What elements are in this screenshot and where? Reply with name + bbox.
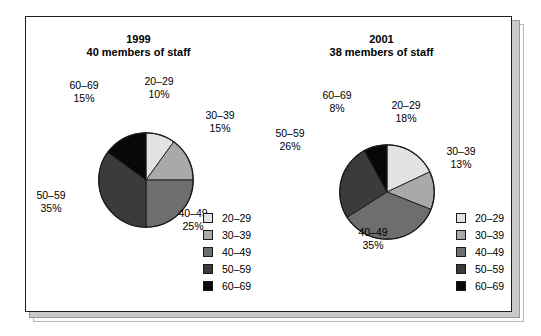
callout-2001-30-39: 30–39 13% [435, 145, 487, 171]
chart-title-1999: 1999 40 members of staff [36, 33, 241, 59]
callout-group: 50–59 [263, 127, 317, 140]
legend-row[interactable]: 40–49 [203, 243, 251, 260]
callout-group: 60–69 [56, 79, 112, 92]
legend-label-20-29: 20–29 [222, 212, 251, 224]
legend-label-30-39: 30–39 [222, 229, 251, 241]
legend-row[interactable]: 30–39 [203, 226, 251, 243]
legend-row[interactable]: 50–59 [456, 260, 504, 277]
legend-swatch-20-29 [203, 213, 213, 223]
callout-group: 20–29 [131, 75, 187, 88]
callout-group: 50–59 [23, 189, 79, 202]
callout-2001-40-49: 40–49 35% [345, 226, 401, 252]
callout-2001-20-29: 20–29 18% [379, 99, 433, 125]
legend-row[interactable]: 60–69 [456, 277, 504, 294]
legend-1999: 20–29 30–39 40–49 50–59 60–69 [203, 209, 251, 294]
callout-pct: 35% [345, 239, 401, 252]
chart-subtitle-staff: 40 members of staff [36, 46, 241, 59]
legend-swatch-50-59 [456, 264, 466, 274]
callout-pct: 15% [194, 122, 246, 135]
legend-swatch-50-59 [203, 264, 213, 274]
callout-group: 60–69 [311, 89, 363, 102]
legend-label-40-49: 40–49 [222, 246, 251, 258]
legend-swatch-40-49 [203, 247, 213, 257]
callout-pct: 26% [263, 140, 317, 153]
callout-1999-50-59: 50–59 35% [23, 189, 79, 215]
chart-subtitle-staff: 38 members of staff [279, 46, 484, 59]
legend-row[interactable]: 60–69 [203, 277, 251, 294]
legend-swatch-60-69 [203, 281, 213, 291]
callout-2001-50-59: 50–59 26% [263, 127, 317, 153]
legend-label-30-39: 30–39 [475, 229, 504, 241]
legend-row[interactable]: 30–39 [456, 226, 504, 243]
chart-title-2001: 2001 38 members of staff [279, 33, 484, 59]
callout-group: 20–29 [379, 99, 433, 112]
callout-pct: 10% [131, 88, 187, 101]
legend-label-50-59: 50–59 [222, 263, 251, 275]
legend-swatch-40-49 [456, 247, 466, 257]
legend-row[interactable]: 20–29 [203, 209, 251, 226]
callout-1999-30-39: 30–39 15% [194, 109, 246, 135]
callout-pct: 18% [379, 112, 433, 125]
legend-row[interactable]: 20–29 [456, 209, 504, 226]
legend-label-40-49: 40–49 [475, 246, 504, 258]
legend-swatch-30-39 [203, 230, 213, 240]
callout-pct: 8% [311, 102, 363, 115]
callout-group: 30–39 [435, 145, 487, 158]
legend-label-20-29: 20–29 [475, 212, 504, 224]
callout-pct: 13% [435, 158, 487, 171]
legend-swatch-60-69 [456, 281, 466, 291]
callout-2001-60-69: 60–69 8% [311, 89, 363, 115]
chart-panel-1999: 1999 40 members of staff 60–69 15% 20–29… [26, 17, 271, 311]
legend-label-60-69: 60–69 [475, 280, 504, 292]
chart-title-year: 1999 [36, 33, 241, 46]
callout-1999-20-29: 20–29 10% [131, 75, 187, 101]
legend-label-60-69: 60–69 [222, 280, 251, 292]
legend-swatch-30-39 [456, 230, 466, 240]
legend-2001: 20–29 30–39 40–49 50–59 60–69 [456, 209, 504, 294]
legend-label-50-59: 50–59 [475, 263, 504, 275]
legend-row[interactable]: 40–49 [456, 243, 504, 260]
chart-title-year: 2001 [279, 33, 484, 46]
legend-swatch-20-29 [456, 213, 466, 223]
legend-row[interactable]: 50–59 [203, 260, 251, 277]
callout-1999-60-69: 60–69 15% [56, 79, 112, 105]
chart-card: 1999 40 members of staff 60–69 15% 20–29… [25, 16, 512, 312]
callout-pct: 15% [56, 92, 112, 105]
callout-group: 40–49 [345, 226, 401, 239]
callout-group: 30–39 [194, 109, 246, 122]
figure-stage: 1999 40 members of staff 60–69 15% 20–29… [0, 0, 541, 336]
chart-panel-2001: 2001 38 members of staff 60–69 8% 20–29 … [271, 17, 513, 311]
callout-pct: 35% [23, 202, 79, 215]
